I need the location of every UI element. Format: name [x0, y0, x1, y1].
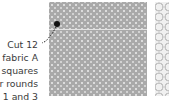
callout-line-2: fabric A [0, 51, 38, 64]
callout-dot-marker [54, 21, 60, 27]
callout-line-5: 1 and 3 [0, 90, 38, 103]
callout-line-1: Cut 12 [0, 38, 38, 51]
callout-line-4: for rounds [0, 77, 38, 90]
callout-label: Cut 12 fabric A squares for rounds 1 and… [0, 38, 38, 103]
callout-line-3: squares [0, 64, 38, 77]
